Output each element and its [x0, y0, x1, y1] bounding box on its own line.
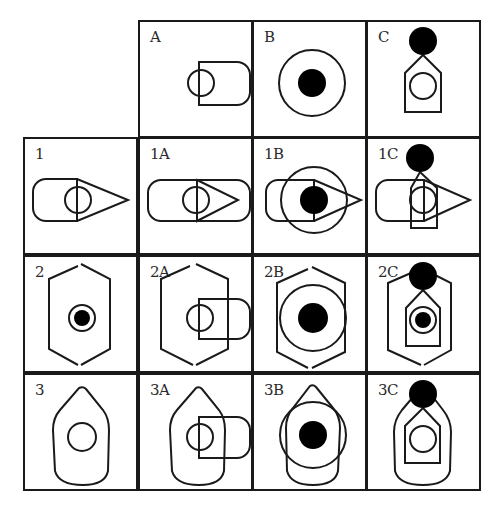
rounded-tab-shape [197, 180, 250, 221]
triangle-pointer-shape [424, 180, 470, 221]
boat-outline-shape [53, 387, 109, 485]
rounded-rect-shape [148, 180, 199, 221]
cell-3A: 3A [138, 373, 253, 491]
filled-dot-shape [409, 380, 437, 408]
shape-B [254, 22, 369, 140]
rounded-tab-shape [199, 62, 250, 105]
shape-3 [25, 375, 140, 493]
cell-C: C [366, 20, 481, 138]
filled-dot-shape [299, 421, 327, 449]
filled-dot-shape [409, 262, 437, 290]
rounded-tab-shape [199, 299, 250, 339]
shape-1 [25, 139, 140, 257]
triangle-pointer-shape [77, 179, 128, 221]
shape-2C [368, 257, 483, 375]
filled-dot-shape [409, 27, 437, 55]
hexagon-shape [161, 264, 228, 365]
filled-dot-shape [406, 144, 434, 172]
boat-outline-shape [394, 397, 451, 485]
cell-2B: 2B [252, 255, 367, 373]
shape-2A [140, 257, 255, 375]
shape-1C [368, 139, 483, 257]
shape-1B [254, 139, 369, 257]
shape-3C [368, 375, 483, 493]
cell-2: 2 [23, 255, 138, 373]
shape-A [140, 22, 255, 140]
filled-dot-shape [298, 69, 326, 97]
cell-1: 1 [23, 137, 138, 255]
circle-shape [68, 423, 96, 451]
cell-3C: 3C [366, 373, 481, 491]
cell-1B: 1B [252, 137, 367, 255]
shape-1A [140, 139, 255, 257]
cell-2A: 2A [138, 255, 253, 373]
cell-1C: 1C [366, 137, 481, 255]
cell-B: B [252, 20, 367, 138]
small-filled-dot-shape [415, 312, 431, 328]
cell-1A: 1A [138, 137, 253, 255]
cell-3B: 3B [252, 373, 367, 491]
rounded-rect-shape [376, 180, 424, 221]
filled-dot-shape [74, 310, 90, 326]
boat-outline-shape [170, 387, 225, 485]
cell-2C: 2C [366, 255, 481, 373]
rounded-rect-shape [33, 179, 77, 221]
shape-2B [254, 257, 369, 375]
shape-2 [25, 257, 140, 375]
shape-combination-matrix: A B C 1 [0, 0, 502, 523]
cell-A: A [138, 20, 253, 138]
filled-dot-shape [300, 186, 328, 214]
circle-shape [188, 70, 214, 96]
shape-3A [140, 375, 255, 493]
circle-shape [410, 426, 436, 452]
circle-shape [410, 73, 436, 99]
cell-3: 3 [23, 373, 138, 491]
shape-C [368, 22, 483, 140]
filled-dot-shape [298, 303, 328, 333]
triangle-pointer-shape [197, 180, 238, 221]
shape-3B [254, 375, 369, 493]
